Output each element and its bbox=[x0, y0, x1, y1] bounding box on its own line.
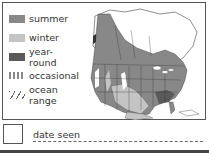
north-america-range-map bbox=[65, 6, 207, 120]
bottom-divider bbox=[0, 150, 209, 153]
date-seen-label: date seen bbox=[33, 129, 80, 140]
date-seen-row: date seen bbox=[3, 122, 207, 144]
legend-label: summer bbox=[29, 13, 68, 24]
ocean-range-hatch-swatch-icon bbox=[9, 91, 25, 99]
date-seen-input-line[interactable] bbox=[33, 141, 203, 142]
summer-swatch-icon bbox=[9, 15, 25, 23]
winter-swatch-icon bbox=[9, 34, 25, 42]
legend-label: winter bbox=[29, 32, 59, 43]
year-round-swatch-icon bbox=[9, 53, 25, 61]
occasional-dotted-swatch-icon bbox=[9, 72, 25, 79]
range-map-frame: summer winter year-round occasional ocea… bbox=[2, 2, 206, 120]
seen-checkbox[interactable] bbox=[3, 124, 23, 144]
